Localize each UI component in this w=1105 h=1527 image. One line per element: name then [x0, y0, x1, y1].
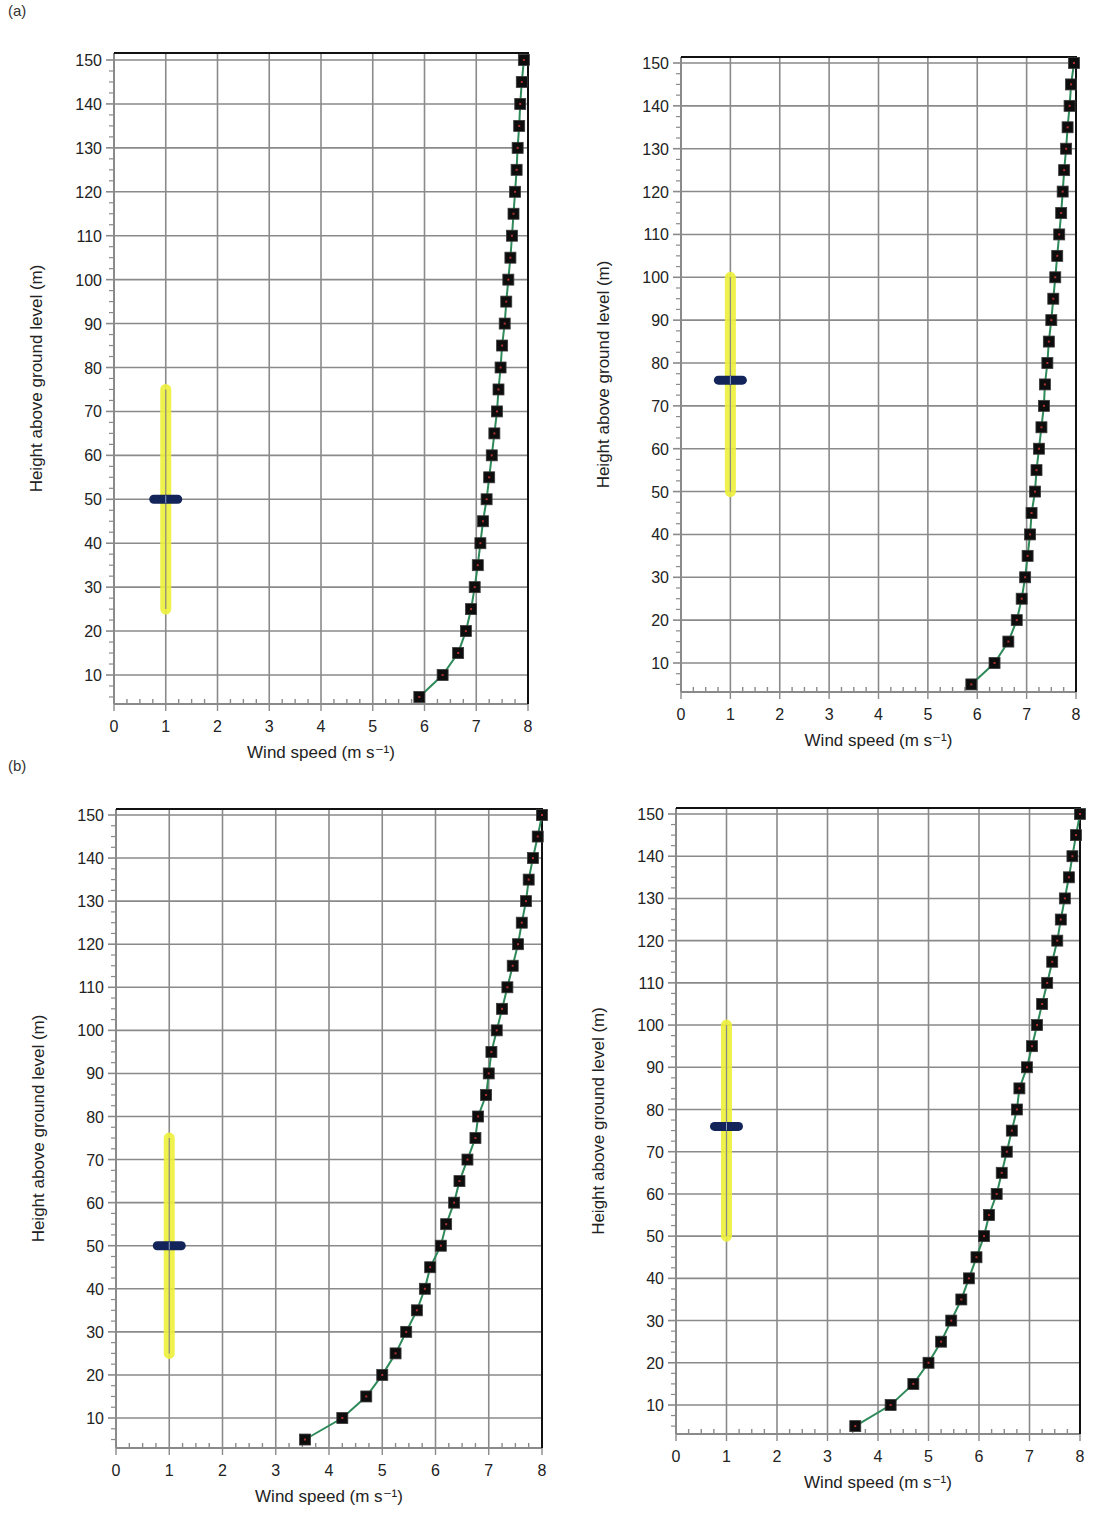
x-tick-label: 2: [213, 718, 222, 735]
y-tick-label: 90: [84, 316, 102, 333]
x-tick-label: 5: [923, 706, 932, 723]
y-tick-label: 20: [646, 1355, 664, 1372]
y-tick-label: 100: [77, 1022, 104, 1039]
y-tick-label: 20: [86, 1367, 104, 1384]
chart-panel-a-left: 1020304050607080901001101201301401500123…: [27, 52, 533, 762]
y-tick-label: 40: [86, 1281, 104, 1298]
y-tick-label: 150: [637, 806, 664, 823]
x-tick-label: 7: [484, 1462, 493, 1479]
y-axis-label: Height above ground level (m): [594, 261, 613, 489]
x-tick-label: 1: [726, 706, 735, 723]
x-tick-label: 3: [271, 1462, 280, 1479]
y-tick-label: 70: [651, 398, 669, 415]
x-tick-label: 0: [672, 1448, 681, 1465]
x-tick-label: 8: [1072, 706, 1081, 723]
y-tick-label: 110: [643, 226, 669, 243]
wind-profile-line: [305, 815, 542, 1440]
x-tick-label: 0: [677, 706, 686, 723]
y-tick-label: 110: [638, 975, 664, 992]
y-tick-label: 30: [84, 579, 102, 596]
chart-canvas: 1020304050607080901001101201301401500123…: [0, 0, 1105, 1527]
y-tick-label: 150: [77, 807, 104, 824]
x-tick-label: 5: [378, 1462, 387, 1479]
x-tick-label: 6: [420, 718, 429, 735]
y-tick-label: 140: [75, 96, 102, 113]
y-axis-label: Height above ground level (m): [27, 265, 46, 493]
x-tick-label: 7: [472, 718, 481, 735]
y-tick-label: 30: [86, 1324, 104, 1341]
x-tick-label: 1: [161, 718, 170, 735]
y-tick-label: 130: [637, 890, 664, 907]
chart-panel-b-left: 1020304050607080901001101201301401500123…: [29, 807, 548, 1506]
wind-profile-line: [855, 814, 1080, 1426]
y-tick-label: 10: [646, 1397, 664, 1414]
x-axis-label: Wind speed (m s⁻¹): [804, 1473, 952, 1492]
x-tick-label: 6: [975, 1448, 984, 1465]
y-tick-label: 130: [642, 141, 669, 158]
x-tick-label: 6: [431, 1462, 440, 1479]
x-tick-label: 3: [265, 718, 274, 735]
y-tick-label: 130: [77, 893, 104, 910]
y-axis-label: Height above ground level (m): [29, 1015, 48, 1243]
y-tick-label: 150: [75, 52, 102, 69]
x-axis-label: Wind speed (m s⁻¹): [255, 1487, 403, 1506]
y-tick-label: 70: [646, 1144, 664, 1161]
x-tick-label: 3: [823, 1448, 832, 1465]
y-tick-label: 40: [646, 1270, 664, 1287]
wind-profile-line: [971, 63, 1074, 684]
y-tick-label: 90: [651, 312, 669, 329]
y-tick-label: 100: [75, 272, 102, 289]
y-tick-label: 130: [75, 140, 102, 157]
y-axis-label: Height above ground level (m): [589, 1007, 608, 1235]
x-tick-label: 0: [112, 1462, 121, 1479]
y-tick-label: 20: [651, 612, 669, 629]
y-tick-label: 60: [84, 447, 102, 464]
y-tick-label: 10: [86, 1410, 104, 1427]
wind-profile-line: [419, 60, 524, 697]
y-tick-label: 30: [646, 1313, 664, 1330]
y-tick-label: 140: [642, 98, 669, 115]
y-tick-label: 100: [637, 1017, 664, 1034]
y-tick-label: 120: [642, 184, 669, 201]
x-tick-label: 2: [773, 1448, 782, 1465]
x-tick-label: 4: [325, 1462, 334, 1479]
y-tick-label: 80: [84, 360, 102, 377]
y-tick-label: 10: [84, 667, 102, 684]
x-axis-label: Wind speed (m s⁻¹): [805, 731, 953, 750]
y-tick-label: 90: [646, 1059, 664, 1076]
y-tick-label: 40: [84, 535, 102, 552]
y-tick-label: 140: [77, 850, 104, 867]
y-tick-label: 70: [86, 1152, 104, 1169]
x-tick-label: 5: [368, 718, 377, 735]
x-tick-label: 8: [1076, 1448, 1085, 1465]
y-tick-label: 30: [651, 569, 669, 586]
x-tick-label: 2: [218, 1462, 227, 1479]
x-tick-label: 8: [538, 1462, 547, 1479]
chart-panel-b-right: 1020304050607080901001101201301401500123…: [589, 806, 1086, 1492]
x-tick-label: 7: [1022, 706, 1031, 723]
y-tick-label: 50: [86, 1238, 104, 1255]
y-tick-label: 80: [651, 355, 669, 372]
x-tick-label: 8: [524, 718, 533, 735]
y-tick-label: 50: [651, 484, 669, 501]
y-tick-label: 50: [646, 1228, 664, 1245]
y-tick-label: 60: [86, 1195, 104, 1212]
y-tick-label: 60: [651, 441, 669, 458]
y-tick-label: 120: [637, 933, 664, 950]
chart-panel-a-right: 1020304050607080901001101201301401500123…: [594, 55, 1081, 750]
y-tick-label: 90: [86, 1065, 104, 1082]
x-tick-label: 4: [317, 718, 326, 735]
y-tick-label: 60: [646, 1186, 664, 1203]
x-tick-label: 1: [165, 1462, 174, 1479]
y-tick-label: 150: [642, 55, 669, 72]
y-tick-label: 80: [646, 1102, 664, 1119]
y-tick-label: 70: [84, 403, 102, 420]
x-tick-label: 1: [722, 1448, 731, 1465]
x-tick-label: 6: [973, 706, 982, 723]
y-tick-label: 80: [86, 1109, 104, 1126]
x-axis-label: Wind speed (m s⁻¹): [247, 743, 395, 762]
y-tick-label: 50: [84, 491, 102, 508]
figure-caption-cropped: [0, 1512, 1105, 1527]
x-tick-label: 3: [825, 706, 834, 723]
y-tick-label: 110: [76, 228, 102, 245]
